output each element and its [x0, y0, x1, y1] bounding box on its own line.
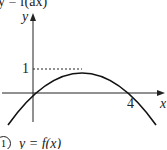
y-tick-1: 1: [22, 62, 29, 76]
option-caption: 1 y = f(x): [0, 136, 61, 149]
marker-number: 1: [1, 138, 6, 149]
option-marker: 1: [0, 136, 11, 149]
y-axis-arrow-icon: [30, 13, 36, 21]
y-axis-label: y: [22, 10, 28, 24]
x-axis-label: x: [160, 97, 166, 111]
x-tick-4: 4: [127, 97, 134, 111]
caption-text: y = f(x): [19, 137, 61, 150]
